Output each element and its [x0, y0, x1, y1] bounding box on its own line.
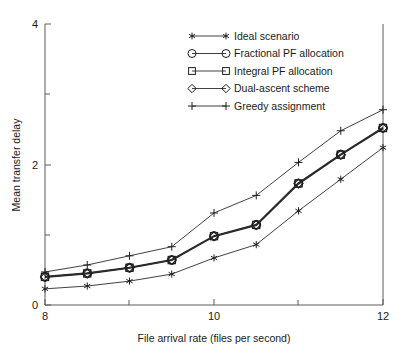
x-tick-label-10: 10 — [208, 310, 220, 322]
legend-label: Integral PF allocation — [234, 65, 333, 77]
y-axis-title: Mean transfer delay — [10, 118, 22, 212]
y-tick-label-0: 0 — [32, 299, 38, 311]
x-tick-label-8: 8 — [42, 310, 48, 322]
chart-figure: 0 2 4 8 10 12 File arrival rate (files p… — [0, 0, 402, 358]
y-tick-label-2: 2 — [32, 159, 38, 171]
legend-label: Dual-ascent scheme — [234, 82, 330, 94]
legend-label: Ideal scenario — [234, 30, 300, 42]
y-tick-label-4: 4 — [32, 18, 38, 30]
legend-label: Fractional PF allocation — [234, 47, 344, 59]
x-tick-label-12: 12 — [377, 310, 389, 322]
legend-label: Greedy assignment — [234, 100, 325, 112]
x-axis-title: File arrival rate (files per second) — [138, 332, 291, 344]
